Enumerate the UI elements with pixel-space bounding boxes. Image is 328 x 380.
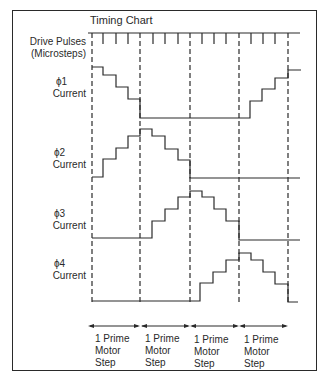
phi1-waveform: [92, 67, 301, 118]
pulse-ticks: [103, 33, 275, 44]
timing-chart-graphic: [0, 0, 328, 380]
phi3-waveform: [92, 191, 300, 240]
step-label-4: 1 Prime Motor Step: [244, 334, 278, 370]
phi4-waveform: [92, 253, 298, 302]
phi2-waveform: [92, 129, 300, 178]
step-label-3: 1 Prime Motor Step: [194, 334, 228, 370]
step-label-1: 1 Prime Motor Step: [95, 333, 129, 369]
step-label-2: 1 Prime Motor Step: [145, 333, 179, 369]
